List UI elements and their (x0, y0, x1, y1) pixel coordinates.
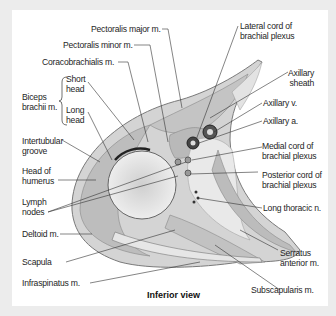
label-deltoid: Deltoid m. (22, 229, 59, 239)
label-subscapularis: Subscapularis m. (251, 285, 314, 295)
label-short-head: Shorthead (66, 74, 86, 94)
label-axillary-sheath: Axillarysheath (288, 68, 314, 88)
label-lateral-cord: Lateral cord ofbrachial plexus (240, 21, 294, 41)
label-axillary-vein: Axillary v. (263, 98, 297, 108)
label-coracobrachialis: Coracobrachialis m. (42, 57, 114, 67)
label-long-thoracic-nerve: Long thoracic n. (263, 203, 321, 213)
label-lymph-nodes: Lymphnodes (22, 197, 46, 217)
figure-caption: Inferior view (147, 290, 200, 300)
label-posterior-cord: Posterior cord ofbrachial plexus (262, 170, 322, 190)
label-long-head: Longhead (66, 105, 84, 125)
label-intertubular-groove: Intertubulargroove (22, 136, 63, 156)
label-pectoralis-minor: Pectoralis minor m. (63, 40, 133, 50)
label-infraspinatus: Infraspinatus m. (22, 278, 80, 288)
label-head-of-humerus: Head ofhumerus (22, 166, 54, 186)
label-serratus-anterior: Serratusanterior m. (280, 248, 319, 268)
label-scapula: Scapula (22, 257, 52, 267)
label-pectoralis-major: Pectoralis major m. (91, 24, 161, 34)
label-biceps-brachii: Bicepsbrachii m. (22, 92, 57, 112)
label-medial-cord: Medial cord ofbrachial plexus (262, 141, 316, 161)
label-axillary-artery: Axillary a. (263, 116, 298, 126)
